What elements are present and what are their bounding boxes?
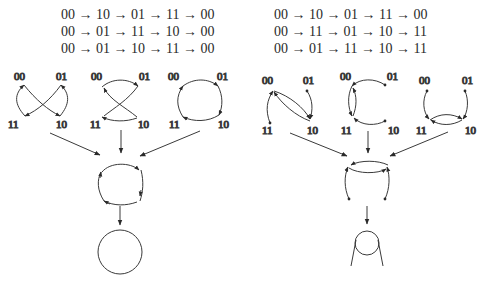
node-label-01: 01 <box>217 70 228 82</box>
right-graph-1 <box>267 91 312 123</box>
node-label-11: 11 <box>90 118 101 130</box>
node-label-00: 00 <box>14 70 26 82</box>
node-label-01: 01 <box>303 74 314 86</box>
node-label-01: 01 <box>462 74 473 86</box>
node-label-00: 00 <box>262 74 274 86</box>
node-label-11: 11 <box>169 118 180 130</box>
diagram-canvas: 00 01 11 10 00 01 11 10 00 01 11 10 <box>0 0 483 288</box>
node-label-10: 10 <box>307 124 319 136</box>
arrow-to-merge <box>50 133 100 155</box>
node-label-01: 01 <box>139 70 150 82</box>
right-graph-2 <box>349 80 385 125</box>
right-merged-graph <box>345 161 389 199</box>
node-label-11: 11 <box>416 124 427 136</box>
node-label-01: 01 <box>387 70 398 82</box>
node-label-00: 00 <box>340 70 352 82</box>
node-label-10: 10 <box>218 118 230 130</box>
left-merged-graph <box>98 164 143 205</box>
node-label-11: 11 <box>8 118 19 130</box>
node-label-00: 00 <box>91 70 103 82</box>
arrow-to-merge <box>140 131 200 156</box>
arrow-to-merge <box>290 133 347 156</box>
left-graph-2 <box>102 80 138 121</box>
left-graph-1 <box>17 85 68 116</box>
node-label-00: 00 <box>419 74 431 86</box>
node-label-01: 01 <box>56 70 67 82</box>
left-graph-3 <box>178 80 222 121</box>
node-label-10: 10 <box>388 124 400 136</box>
node-label-10: 10 <box>465 124 477 136</box>
node-label-11: 11 <box>262 124 273 136</box>
node-label-11: 11 <box>341 124 352 136</box>
right-result-loop <box>351 231 383 266</box>
node-label-00: 00 <box>168 70 180 82</box>
node-label-10: 10 <box>56 118 68 130</box>
right-graph-3 <box>424 91 468 125</box>
node-label-10: 10 <box>138 118 150 130</box>
left-result-circle <box>98 230 142 274</box>
